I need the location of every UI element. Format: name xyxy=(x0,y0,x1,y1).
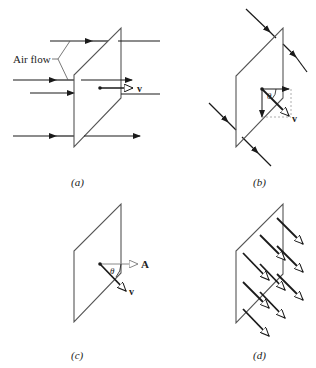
velocity-vector xyxy=(260,235,285,260)
velocity-vector xyxy=(243,253,269,280)
panel-c: A θ v (c) xyxy=(71,204,149,362)
airflow-arrow xyxy=(242,137,258,153)
surface xyxy=(74,204,121,322)
leader-line xyxy=(52,41,70,59)
caption-c: (c) xyxy=(71,349,84,362)
caption-d: (d) xyxy=(253,349,266,362)
velocity-label: v xyxy=(129,286,134,297)
surface xyxy=(236,28,283,147)
leader-line xyxy=(58,59,68,80)
velocity-label: v xyxy=(137,83,142,94)
surface xyxy=(236,204,283,323)
airflow-arrow xyxy=(283,44,296,57)
panel-a: v Air flow (a) xyxy=(13,28,160,189)
flux-figure: v Air flow (a) θ v (b) xyxy=(0,0,316,368)
velocity-vector xyxy=(260,292,285,318)
panel-d: (d) xyxy=(236,204,303,362)
panel-b: θ v (b) xyxy=(209,9,307,189)
velocity-label: v xyxy=(292,113,297,124)
velocity-vector xyxy=(243,282,269,308)
airflow-arrow xyxy=(209,103,228,122)
air-flow-label: Air flow xyxy=(13,53,51,65)
area-vector-label: A xyxy=(141,258,149,270)
caption-a: (a) xyxy=(71,176,84,189)
velocity-vector xyxy=(277,246,303,272)
velocity-vector xyxy=(277,218,303,244)
caption-b: (b) xyxy=(253,176,266,189)
airflow-arrow xyxy=(246,9,270,32)
angle-arc xyxy=(272,89,276,99)
velocity-vector xyxy=(243,309,269,336)
